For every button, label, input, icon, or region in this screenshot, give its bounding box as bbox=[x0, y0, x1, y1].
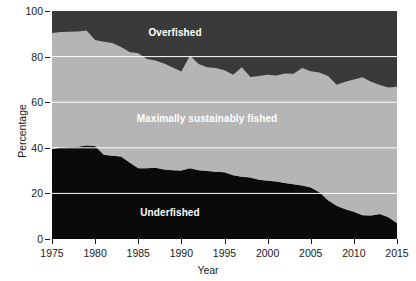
series-label-overfished: Overfished bbox=[148, 27, 201, 38]
x-tick-mark-2010 bbox=[354, 239, 355, 244]
x-tick-label-2010: 2010 bbox=[342, 248, 365, 259]
y-tick-mark-40 bbox=[45, 148, 50, 149]
y-tick-label-80: 80 bbox=[31, 52, 43, 62]
y-tick-mark-80 bbox=[45, 57, 50, 58]
y-tick-label-40: 40 bbox=[31, 143, 43, 153]
x-tick-mark-2015 bbox=[397, 239, 398, 244]
y-tick-label-100: 100 bbox=[25, 6, 43, 16]
y-tick-mark-20 bbox=[45, 193, 50, 194]
x-tick-mark-2000 bbox=[268, 239, 269, 244]
x-tick-mark-1990 bbox=[181, 239, 182, 244]
x-tick-label-2005: 2005 bbox=[299, 248, 322, 259]
series-label-underfished: Underfished bbox=[140, 207, 199, 218]
x-tick-label-2000: 2000 bbox=[256, 248, 279, 259]
series-label-maximally: Maximally sustainably fished bbox=[137, 113, 278, 124]
x-tick-mark-2005 bbox=[311, 239, 312, 244]
y-tick-mark-60 bbox=[45, 102, 50, 103]
x-tick-mark-1975 bbox=[52, 239, 53, 244]
x-tick-label-1995: 1995 bbox=[213, 248, 236, 259]
x-axis: Year 19751980198519901995200020052010201… bbox=[0, 239, 416, 281]
x-tick-label-2015: 2015 bbox=[385, 248, 408, 259]
y-axis-title: Percentage bbox=[16, 71, 28, 191]
y-axis: Percentage 020406080100 bbox=[0, 0, 52, 250]
x-tick-mark-1980 bbox=[95, 239, 96, 244]
x-tick-mark-1985 bbox=[138, 239, 139, 244]
x-axis-title: Year bbox=[0, 264, 416, 276]
stacked-area-chart: Percentage 020406080100 Year 19751980198… bbox=[0, 0, 416, 281]
x-tick-label-1985: 1985 bbox=[127, 248, 150, 259]
x-tick-label-1990: 1990 bbox=[170, 248, 193, 259]
plot-svg bbox=[52, 11, 397, 239]
areas-group bbox=[52, 11, 397, 239]
y-tick-mark-100 bbox=[45, 11, 50, 12]
x-tick-label-1980: 1980 bbox=[83, 248, 106, 259]
y-tick-label-60: 60 bbox=[31, 97, 43, 107]
y-tick-label-20: 20 bbox=[31, 188, 43, 198]
plot-area bbox=[52, 11, 397, 239]
x-tick-label-1975: 1975 bbox=[40, 248, 63, 259]
x-tick-mark-1995 bbox=[225, 239, 226, 244]
